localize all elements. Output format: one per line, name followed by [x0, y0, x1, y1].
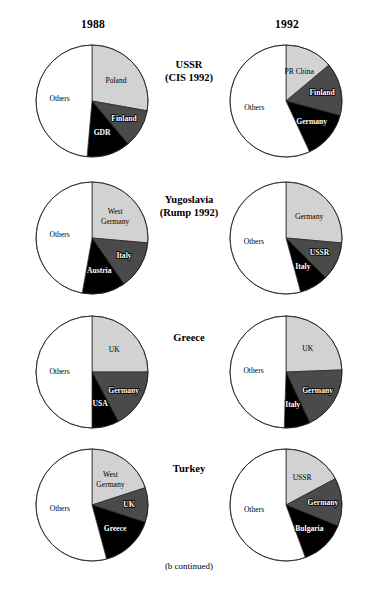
pie-slice-label: Germany	[295, 212, 323, 221]
pie-slice-label: Greece	[104, 524, 127, 533]
pie-slice-label: Others	[49, 94, 69, 103]
pie-slice-label: Italy	[116, 251, 131, 260]
pie-slice-label: Others	[50, 504, 70, 513]
pie-slice-label: Bulgaria	[295, 524, 323, 533]
pie-svg: UKGermanyUSAOthers	[34, 314, 150, 430]
pie-slice-label: UK	[109, 345, 120, 354]
pie-slice-label: Germany	[296, 117, 327, 126]
pie-svg: PR ChinaFinlandGermanyOthers	[228, 43, 344, 159]
pie-slice-label: USSR	[310, 248, 330, 257]
pie-svg: PolandFinlandGDROthers	[34, 43, 150, 159]
pie-chart: PolandFinlandGDROthers	[34, 43, 150, 159]
pie-slice-label: PR China	[285, 67, 315, 76]
pie-chart: WestGermanyItalyAustriaOthers	[34, 180, 150, 296]
pie-slice-label: Germany	[302, 386, 333, 395]
pie-slice-label: Italy	[295, 262, 310, 271]
pie-slice-label: Others	[49, 367, 69, 376]
pie-svg: WestGermanyUKGreeceOthers	[34, 447, 150, 563]
pie-slice-label: Others	[50, 230, 70, 239]
pie-chart: PR ChinaFinlandGermanyOthers	[228, 43, 344, 159]
pie-chart: UKGermanyUSAOthers	[34, 314, 150, 430]
pie-slice-label: Italy	[285, 400, 300, 409]
pie-chart: WestGermanyUKGreeceOthers	[34, 447, 150, 563]
pie-slice	[286, 316, 342, 372]
column-header-1992: 1992	[252, 18, 322, 30]
pie-chart: USSRGermanyBulgariaOthers	[228, 447, 344, 563]
pie-chart: GermanyUSSRItalyOthers	[228, 180, 344, 296]
pie-slice-label: Germany	[308, 498, 339, 507]
pie-svg: GermanyUSSRItalyOthers	[228, 180, 344, 296]
pie-chart-figure: 1988 1992 USSR (CIS 1992) Yugoslavia (Ru…	[0, 0, 374, 607]
pie-svg: UKGermanyItalyOthers	[228, 314, 344, 430]
pie-slice-label: Germany	[108, 386, 139, 395]
pie-slice-label: Others	[244, 103, 264, 112]
pie-slice-label: Others	[243, 366, 263, 375]
pie-slice	[92, 316, 148, 372]
pie-chart: UKGermanyItalyOthers	[228, 314, 344, 430]
pie-svg: USSRGermanyBulgariaOthers	[228, 447, 344, 563]
pie-svg: WestGermanyItalyAustriaOthers	[34, 180, 150, 296]
pie-slice-label: Austria	[87, 266, 112, 275]
pie-slice-label: Poland	[105, 76, 126, 85]
pie-slice-label: Finland	[111, 114, 137, 123]
pie-slice-label: GDR	[94, 128, 111, 137]
pie-slice-label: USSR	[293, 473, 313, 482]
pie-slice-label: Finland	[309, 88, 335, 97]
pie-slice-label: Others	[244, 237, 264, 246]
pie-slice-label: USA	[93, 399, 109, 408]
pie-slice-label: UK	[123, 500, 134, 509]
pie-slice-label: Others	[244, 505, 264, 514]
column-header-1988: 1988	[58, 18, 128, 30]
pie-slice-label: UK	[302, 344, 313, 353]
